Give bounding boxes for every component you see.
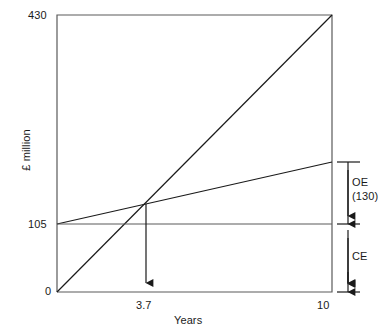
y-axis-zero-label: 0 [45, 285, 51, 297]
oe-bracket-label: OE [352, 176, 368, 188]
chart-container: 430 105 0 £ million 3.7 10 Years OE (130… [0, 0, 391, 334]
y-axis-mid-label: 105 [28, 218, 47, 230]
y-axis-max-label: 430 [28, 9, 47, 21]
x-axis-mid-label: 3.7 [136, 299, 152, 311]
shallow-line [57, 162, 332, 224]
chart-graphic [0, 0, 391, 334]
oe-bracket-value: (130) [352, 190, 378, 202]
steep-line [57, 15, 332, 292]
y-axis-title: £ million [20, 119, 32, 181]
ce-bracket-label: CE [352, 250, 367, 262]
x-axis-title: Years [174, 314, 202, 326]
x-axis-max-label: 10 [317, 299, 329, 311]
